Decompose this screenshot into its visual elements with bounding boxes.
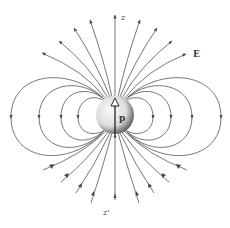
arrow-down-icon	[152, 115, 155, 119]
arrow-down-icon	[77, 115, 80, 119]
arrow-down-icon	[10, 115, 13, 119]
arrow-in-icon	[91, 191, 95, 196]
field-line-bottom	[91, 133, 112, 203]
z-prime-axis-label: z'	[103, 208, 109, 217]
arrow-down-icon	[60, 115, 63, 119]
field-line-top	[59, 41, 108, 98]
arrow-down-icon	[170, 115, 173, 119]
field-line-top	[118, 20, 140, 97]
dipole-field-diagram	[0, 0, 230, 228]
arrow-down-icon	[220, 115, 223, 119]
dipole-label: p	[119, 113, 125, 123]
z-axis-label: z	[121, 13, 125, 22]
field-label: E	[193, 49, 200, 59]
field-line-top	[122, 41, 172, 98]
field-line-top	[90, 20, 112, 97]
arrow-up-icon	[114, 193, 117, 198]
arrow-in-icon	[136, 191, 140, 196]
arrow-in-icon	[49, 164, 54, 169]
arrow-in-icon	[176, 164, 181, 169]
field-loop-right	[128, 78, 221, 156]
field-line-bottom	[124, 131, 187, 170]
arrow-down-icon	[191, 115, 194, 119]
field-line-bottom	[43, 131, 106, 170]
arrow-down-icon	[38, 115, 41, 119]
